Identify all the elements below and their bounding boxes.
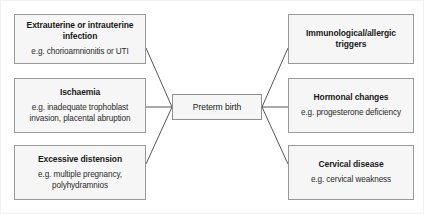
connector-infection-to-center (146, 48, 172, 107)
connector-center-to-immunological (262, 48, 288, 107)
node-ischaemia[interactable]: Ischaemia e.g. inadequate trophoblast in… (14, 78, 146, 133)
node-ischaemia-title: Ischaemia (60, 87, 100, 98)
node-preterm-birth-title: Preterm birth (193, 102, 241, 113)
connector-center-to-cervical (262, 107, 288, 164)
node-infection-subtitle: e.g. chorioamnionitis or UTI (31, 47, 128, 58)
node-preterm-birth[interactable]: Preterm birth (172, 94, 262, 120)
node-infection-title: Extrauterine or intrauterine infection (19, 20, 141, 42)
node-immunological-allergic-title: Immunological/allergic triggers (293, 28, 409, 50)
diagram-canvas: Extrauterine or intrauterine infection e… (0, 0, 424, 214)
node-cervical-disease-title: Cervical disease (318, 159, 383, 170)
node-excessive-distension-subtitle: e.g. multiple pregnancy, polyhydramnios (19, 170, 141, 191)
node-cervical-disease[interactable]: Cervical disease e.g. cervical weakness (288, 145, 414, 200)
node-excessive-distension[interactable]: Excessive distension e.g. multiple pregn… (14, 145, 146, 200)
node-hormonal-changes[interactable]: Hormonal changes e.g. progesterone defic… (288, 78, 414, 133)
node-hormonal-changes-title: Hormonal changes (314, 92, 389, 103)
node-ischaemia-subtitle: e.g. inadequate trophoblast invasion, pl… (19, 103, 141, 124)
node-excessive-distension-title: Excessive distension (38, 154, 122, 165)
node-cervical-disease-subtitle: e.g. cervical weakness (311, 175, 391, 186)
node-infection[interactable]: Extrauterine or intrauterine infection e… (14, 14, 146, 64)
connector-distension-to-center (146, 107, 172, 164)
node-hormonal-changes-subtitle: e.g. progesterone deficiency (301, 108, 401, 119)
node-immunological-allergic[interactable]: Immunological/allergic triggers (288, 14, 414, 64)
